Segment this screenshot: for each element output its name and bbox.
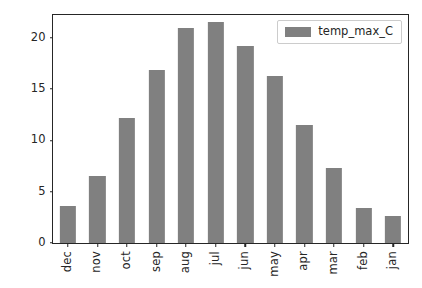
bar-oct[interactable] (119, 118, 135, 243)
x-tick-feb: feb (358, 243, 370, 270)
x-tick-apr: apr (299, 243, 311, 270)
x-tick-jul: jul (210, 243, 222, 265)
bar-jan[interactable] (385, 216, 401, 243)
x-tick-oct: oct (121, 243, 133, 269)
legend-label-temp-max-c: temp_max_C (318, 26, 393, 38)
y-tick-mark (50, 37, 54, 38)
y-tick-20: 20 (31, 32, 53, 44)
x-tick-label: jul (210, 251, 222, 265)
x-tick-jun: jun (240, 243, 252, 269)
x-tick-aug: aug (180, 243, 192, 273)
bar-feb[interactable] (355, 208, 371, 243)
bar-dec[interactable] (60, 206, 76, 243)
x-tick-mark (215, 243, 216, 247)
legend-swatch-temp-max-c (285, 27, 311, 37)
x-tick-mark (156, 243, 157, 247)
x-tick-label: jan (387, 251, 399, 269)
x-tick-mark (245, 243, 246, 247)
x-tick-mark (186, 243, 187, 247)
y-tick-label: 20 (31, 32, 50, 44)
x-tick-sep: sep (151, 243, 163, 271)
x-tick-label: may (269, 251, 281, 277)
y-tick-mark (50, 88, 54, 89)
x-tick-mark (97, 243, 98, 247)
x-tick-mark (274, 243, 275, 247)
y-tick-0: 0 (38, 237, 53, 249)
bar-sep[interactable] (148, 70, 164, 243)
x-tick-jan: jan (387, 243, 399, 269)
x-tick-mark (67, 243, 68, 247)
x-tick-mar: mar (328, 243, 340, 274)
x-tick-mark (126, 243, 127, 247)
bar-may[interactable] (267, 76, 283, 243)
x-tick-mark (393, 243, 394, 247)
x-tick-label: mar (328, 251, 340, 275)
bar-chart-figure: 0 5 10 15 20 decnovoctsepaugjuljunmayapr… (0, 0, 422, 288)
x-tick-dec: dec (62, 243, 74, 272)
legend[interactable]: temp_max_C (277, 20, 402, 44)
x-tick-label: oct (121, 251, 133, 269)
bar-aug[interactable] (178, 28, 194, 243)
x-tick-label: nov (92, 251, 104, 273)
x-tick-label: feb (358, 251, 370, 270)
y-tick-label: 15 (31, 83, 50, 95)
y-tick-mark (50, 191, 54, 192)
x-tick-nov: nov (92, 243, 104, 272)
y-tick-label: 5 (38, 186, 49, 198)
bar-jun[interactable] (237, 46, 253, 243)
x-tick-mark (333, 243, 334, 247)
y-tick-label: 0 (38, 237, 49, 249)
x-tick-label: aug (180, 251, 192, 273)
y-tick-10: 10 (31, 135, 53, 147)
y-tick-label: 10 (31, 135, 50, 147)
y-tick-mark (50, 242, 54, 243)
x-tick-mark (363, 243, 364, 247)
y-tick-5: 5 (38, 186, 53, 198)
bar-mar[interactable] (326, 168, 342, 243)
y-tick-mark (50, 140, 54, 141)
x-tick-label: sep (151, 251, 163, 272)
x-tick-label: jun (240, 251, 252, 269)
bar-jul[interactable] (208, 22, 224, 243)
bar-apr[interactable] (296, 125, 312, 243)
x-tick-may: may (269, 243, 281, 276)
x-tick-label: apr (299, 251, 311, 271)
x-tick-label: dec (62, 251, 74, 272)
bar-nov[interactable] (89, 176, 105, 243)
plot-axes: 0 5 10 15 20 decnovoctsepaugjuljunmayapr… (52, 14, 409, 244)
x-tick-mark (304, 243, 305, 247)
y-tick-15: 15 (31, 83, 53, 95)
